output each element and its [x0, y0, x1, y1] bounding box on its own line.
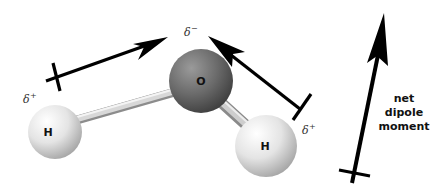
charge-hydrogen-right: δ +	[302, 122, 316, 137]
net-dipole-arrow	[339, 13, 388, 183]
hydrogen-atom-right: H	[235, 115, 297, 177]
net-dipole-label: net dipole moment	[378, 92, 429, 133]
hydrogen-atom-left: H	[28, 105, 82, 159]
svg-text:δ: δ	[302, 124, 309, 137]
svg-text:moment: moment	[378, 120, 429, 133]
bond-left	[70, 87, 182, 122]
hydrogen-right-label: H	[260, 140, 269, 153]
water-dipole-diagram: O H H δ −	[0, 0, 435, 194]
svg-text:−: −	[191, 24, 198, 33]
diagram-canvas: O H H δ −	[0, 0, 435, 194]
bond-dipole-arrow-left	[46, 37, 168, 91]
charge-hydrogen-left: δ +	[23, 91, 37, 106]
charge-oxygen: δ −	[184, 24, 198, 39]
svg-text:δ: δ	[184, 26, 191, 39]
svg-text:dipole: dipole	[385, 106, 423, 119]
svg-text:net: net	[394, 92, 415, 105]
svg-text:+: +	[30, 91, 37, 100]
oxygen-atom: O	[169, 49, 233, 113]
hydrogen-left-label: H	[43, 126, 52, 139]
svg-text:+: +	[309, 122, 316, 131]
oxygen-label: O	[196, 75, 205, 88]
svg-text:δ: δ	[23, 93, 30, 106]
